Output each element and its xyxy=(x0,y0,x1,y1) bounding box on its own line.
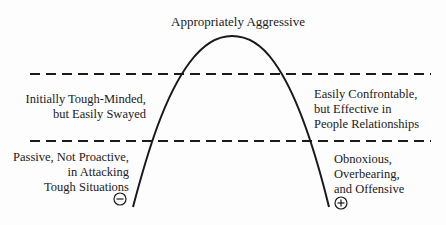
zone-line: in Attacking xyxy=(13,165,129,180)
zone-line: but Effective in xyxy=(314,102,419,117)
zone-line: Obnoxious, xyxy=(334,152,404,167)
zone-label-upper-left: Initially Tough-Minded, but Easily Swaye… xyxy=(26,92,146,122)
inverted-u-curve xyxy=(133,36,329,207)
zone-line: and Offensive xyxy=(334,182,404,197)
zone-line: Initially Tough-Minded, xyxy=(26,92,146,107)
zone-line: People Relationships xyxy=(314,117,419,132)
zone-label-lower-left: Passive, Not Proactive, in Attacking Tou… xyxy=(13,150,129,195)
title-text: Appropriately Aggressive xyxy=(171,14,305,29)
zone-label-upper-right: Easily Confrontable, but Effective in Pe… xyxy=(314,87,419,132)
zone-line: but Easily Swayed xyxy=(26,107,146,122)
zone-line: Overbearing, xyxy=(334,167,404,182)
diagram-title: Appropriately Aggressive xyxy=(171,14,305,29)
aggressiveness-curve-diagram: Appropriately Aggressive Initially Tough… xyxy=(0,0,446,225)
zone-line: Easily Confrontable, xyxy=(314,87,419,102)
zone-label-lower-right: Obnoxious, Overbearing, and Offensive xyxy=(334,152,404,197)
zone-line: Passive, Not Proactive, xyxy=(13,150,129,165)
plus-circle-icon xyxy=(335,197,347,209)
zone-line: Tough Situations xyxy=(13,180,129,195)
